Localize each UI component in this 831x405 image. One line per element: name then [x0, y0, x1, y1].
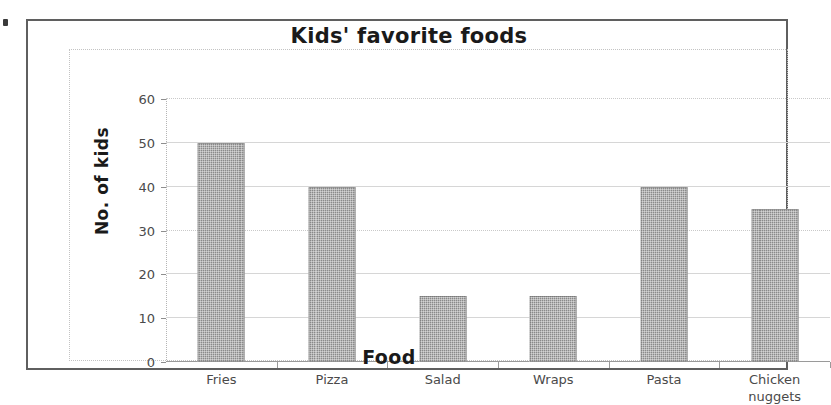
plot-area: 0102030405060 FriesPizzaSaladWrapsPastaC…	[69, 49, 788, 361]
y-tick-label-10: 10	[138, 311, 155, 326]
chart-title: Kids' favorite foods	[28, 24, 790, 48]
x-axis-title: Food	[69, 346, 709, 368]
x-tick-label: Chickennuggets	[719, 371, 830, 405]
y-tick-label-30: 30	[138, 223, 155, 238]
bar-slot	[387, 99, 498, 362]
bar[interactable]	[640, 187, 687, 362]
scan-artifact-speck	[3, 19, 8, 26]
x-tick-label: Fries	[166, 371, 277, 388]
bar-slot	[609, 99, 720, 362]
y-tick-label-40: 40	[138, 179, 155, 194]
x-tick-label: Pasta	[609, 371, 720, 388]
y-tick-label-50: 50	[138, 135, 155, 150]
x-tick-label: Salad	[387, 371, 498, 388]
y-tick-label-60: 60	[138, 92, 155, 107]
bar[interactable]	[308, 187, 355, 362]
bar-slot	[719, 99, 830, 362]
chart-frame: Kids' favorite foods No. of kids 0102030…	[26, 19, 788, 370]
x-tick-mark	[719, 362, 720, 368]
y-tick-label-20: 20	[138, 267, 155, 282]
bar[interactable]	[751, 209, 798, 362]
bar[interactable]	[198, 143, 245, 362]
x-tick-label: Pizza	[277, 371, 388, 388]
x-tick-label: Wraps	[498, 371, 609, 388]
bar-slot	[498, 99, 609, 362]
bar-slot	[166, 99, 277, 362]
plot-canvas: 0102030405060 FriesPizzaSaladWrapsPastaC…	[166, 99, 830, 362]
bar-slot	[277, 99, 388, 362]
